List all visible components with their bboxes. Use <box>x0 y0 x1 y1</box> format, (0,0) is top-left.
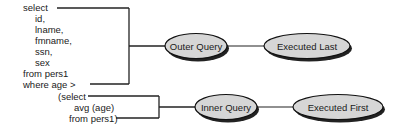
node-executed-last: Executed Last <box>264 34 352 62</box>
node-outer-query-label: Outer Query <box>170 41 223 52</box>
node-executed-first: Executed First <box>293 95 385 123</box>
outer-bracket <box>57 8 166 84</box>
diagram-canvas: Outer Query Executed Last Inner Query Ex… <box>0 0 397 136</box>
inner-bracket <box>88 96 196 118</box>
node-outer-query: Outer Query <box>165 34 229 62</box>
node-executed-last-label: Executed Last <box>277 41 338 52</box>
node-inner-query: Inner Query <box>195 95 259 123</box>
node-executed-first-label: Executed First <box>308 102 369 113</box>
node-inner-query-label: Inner Query <box>201 102 251 113</box>
